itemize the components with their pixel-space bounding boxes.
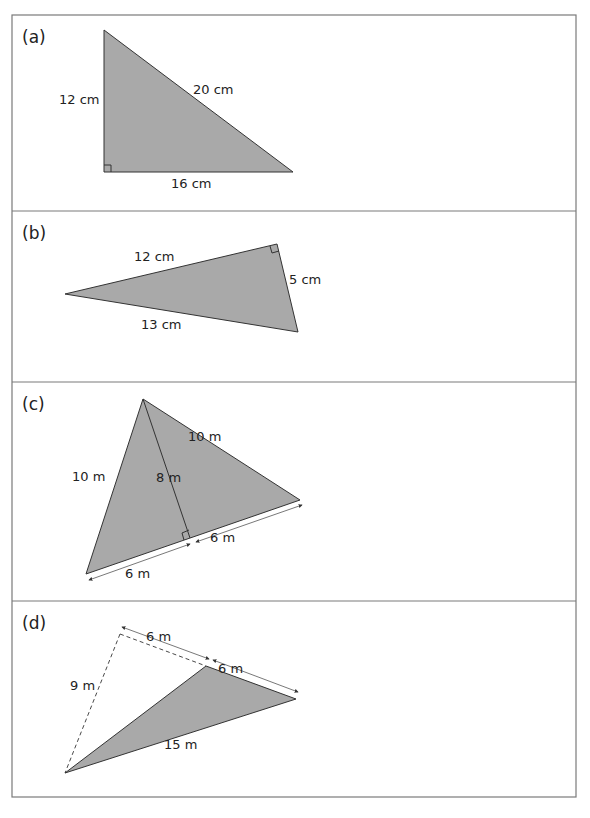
triangle-c xyxy=(86,399,300,574)
triangle-b xyxy=(65,244,298,332)
side-label-a-hypotenuse: 20 cm xyxy=(193,82,234,97)
triangles-worksheet: (a) 12 cm 20 cm 16 cm (b) 12 cm 5 cm 13 … xyxy=(0,0,590,818)
triangle-a xyxy=(104,30,293,172)
side-label-c-left: 10 m xyxy=(72,469,105,484)
panel-b: (b) 12 cm 5 cm 13 cm xyxy=(22,223,321,332)
side-label-a-base: 16 cm xyxy=(171,176,212,191)
panel-d: (d) 6 m 6 m 9 m 15 m xyxy=(22,613,298,773)
panel-a: (a) 12 cm 20 cm 16 cm xyxy=(22,27,293,191)
panel-label-d: (d) xyxy=(22,613,46,633)
side-label-c-base-left: 6 m xyxy=(125,566,150,581)
side-label-c-right: 10 m xyxy=(188,429,221,444)
side-label-c-altitude: 8 m xyxy=(156,470,181,485)
outer-frame xyxy=(12,15,576,797)
side-label-d-left: 9 m xyxy=(70,678,95,693)
side-label-b-top: 12 cm xyxy=(134,249,175,264)
side-label-d-top-right: 6 m xyxy=(218,661,243,676)
panel-c: (c) 10 m 10 m 8 m 6 m 6 m xyxy=(22,394,302,581)
panel-label-b: (b) xyxy=(22,223,46,243)
side-label-b-bottom: 13 cm xyxy=(141,317,182,332)
triangle-d xyxy=(65,666,296,773)
side-label-d-bottom: 15 m xyxy=(164,737,197,752)
side-label-a-vertical: 12 cm xyxy=(59,92,100,107)
panel-label-c: (c) xyxy=(22,394,45,414)
side-label-d-top-left: 6 m xyxy=(146,629,171,644)
panel-label-a: (a) xyxy=(22,27,46,47)
side-label-b-right: 5 cm xyxy=(289,272,321,287)
side-label-c-base-right: 6 m xyxy=(210,530,235,545)
